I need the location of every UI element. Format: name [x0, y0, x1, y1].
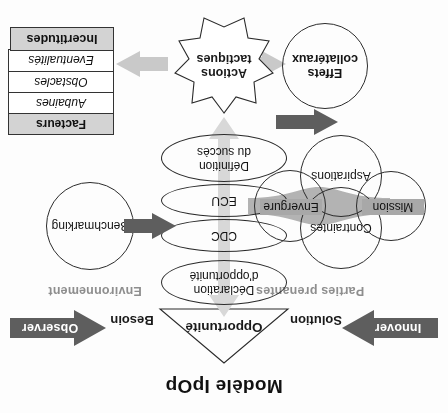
innover-arrow: Innover	[342, 309, 438, 347]
ellipse-ecu-label: ECU	[211, 194, 236, 208]
circle-effets-label: Effets collatéraux	[292, 52, 358, 80]
diagram-canvas: Modèle IpOp Opportunité Solution Besoin …	[0, 0, 448, 413]
observer-arrow-label: Observer	[10, 309, 106, 347]
circle-mission-label: Mission	[362, 199, 424, 215]
ellipse-definition-label: Définition du succès	[197, 144, 251, 172]
circle-benchmarking-label: Benchmarking	[52, 219, 129, 233]
caption-environnement: Environnement	[20, 284, 170, 298]
innover-arrow-label: Innover	[342, 309, 438, 347]
triangle-right-label: Besoin	[102, 311, 162, 329]
circle-effets-collateraux: Effets collatéraux	[282, 23, 368, 109]
observer-arrow: Observer	[10, 309, 106, 347]
table-row: Eventualités	[9, 50, 113, 71]
table-header-facteurs: Facteurs	[9, 113, 113, 134]
actions-to-environment-arrow	[116, 51, 168, 77]
page-title: Modèle IpOp	[118, 373, 330, 399]
table-row: Aubaines	[9, 92, 113, 113]
circle-envergure-label: Envergure	[260, 199, 322, 215]
triangle-left-label: Solution	[284, 311, 348, 329]
circle-benchmarking: Benchmarking	[46, 182, 134, 270]
incertitudes-box: Incertitudes	[10, 27, 114, 51]
definition-to-aspirations-arrow	[276, 109, 338, 135]
triangle-apex-label: Opportunité	[176, 317, 272, 337]
circle-aspirations-label: Aspirations	[311, 169, 370, 183]
actions-tactiques-label: Actions tactiques	[176, 49, 272, 83]
environment-factors-table: Facteurs Aubaines Obstacles Eventualités	[8, 49, 114, 135]
ellipse-declaration-label: Déclaration d'opportunité	[190, 269, 259, 297]
benchmarking-to-cdc-arrow	[124, 213, 176, 239]
ellipse-declaration-opportunite: Déclaration d'opportunité	[161, 260, 287, 305]
ipop-model-figure: Modèle IpOp Opportunité Solution Besoin …	[0, 0, 448, 413]
ellipse-definition-succes: Définition du succès	[161, 134, 287, 182]
ellipse-cdc-label: CDC	[211, 229, 237, 243]
table-row: Obstacles	[9, 71, 113, 92]
